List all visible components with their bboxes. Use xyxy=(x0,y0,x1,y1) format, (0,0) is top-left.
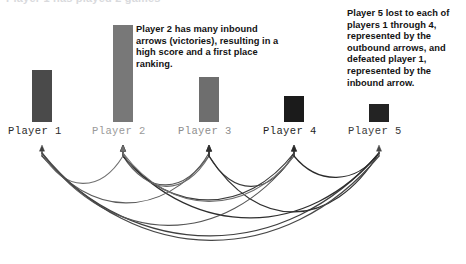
match-result-arc-network xyxy=(0,0,466,264)
figure-canvas: Player 1 has played 2 games Player 1Play… xyxy=(0,0,466,264)
arc-player-1-to-player-2-arrowhead xyxy=(120,145,125,151)
arc-player-5-to-player-1-arrowhead xyxy=(39,145,44,151)
arc-player-5-to-player-3-arrowhead xyxy=(206,145,211,151)
arc-player-1-to-player-5-arrowhead xyxy=(376,145,381,151)
arc-player-5-to-player-4 xyxy=(294,153,379,177)
arc-player-2-to-player-4 xyxy=(123,153,294,201)
arc-player-5-to-player-1 xyxy=(42,153,379,236)
arc-player-5-to-player-4-arrowhead xyxy=(291,145,296,151)
arc-player-4-to-player-2 xyxy=(123,153,294,200)
